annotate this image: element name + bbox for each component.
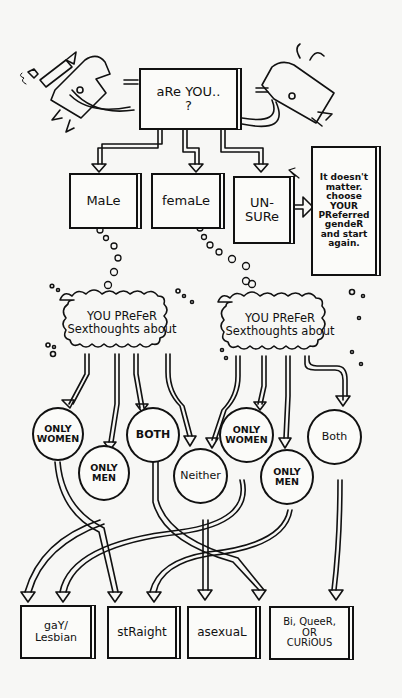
gender-box-female[interactable]: femaLe: [151, 173, 221, 229]
outcome-label: Bi, QueeR, OR CURiOUS: [283, 617, 336, 649]
flowchart: aRe YOU.. ? MaLe femaLe UN- SURe It does…: [0, 0, 402, 698]
question-box: aRe YOU.. ?: [139, 68, 238, 130]
gender-box-unsure[interactable]: UN- SURe: [233, 176, 291, 244]
outcome-label: stRaight: [117, 626, 167, 639]
unsure-note-text: It doesn't matter. choose YOUR PReferred…: [318, 173, 369, 249]
gender-box-male[interactable]: MaLe: [69, 173, 138, 229]
option-neither[interactable]: Neither: [173, 448, 228, 504]
gender-label: MaLe: [86, 194, 120, 208]
option-only-women-right[interactable]: ONLY WOMEN: [219, 407, 274, 463]
outcome-asexual[interactable]: asexuaL: [187, 606, 257, 659]
cloud-label: YOU PReFeR Sexthoughts about: [67, 310, 176, 336]
option-label: ONLY WOMEN: [37, 424, 79, 445]
unsure-note-box: It doesn't matter. choose YOUR PReferred…: [311, 146, 377, 276]
option-label: ONLY WOMEN: [225, 425, 267, 446]
gender-label: femaLe: [162, 194, 210, 208]
option-only-men-left[interactable]: ONLY MEN: [78, 445, 130, 501]
thought-bubbles: [97, 225, 256, 289]
right-character-illustration: [242, 44, 334, 126]
outcome-bi-queer-curious[interactable]: Bi, QueeR, OR CURiOUS: [269, 606, 350, 660]
gender-label: UN- SURe: [245, 196, 279, 223]
option-both-right[interactable]: Both: [307, 409, 362, 465]
preference-cloud-male: YOU PReFeR Sexthoughts about: [56, 292, 188, 354]
outcome-straight[interactable]: stRaight: [107, 606, 177, 659]
outcome-label: gaY/ Lesbian: [35, 620, 77, 643]
outcome-gay-lesbian[interactable]: gaY/ Lesbian: [20, 605, 92, 659]
option-both-left[interactable]: BOTH: [126, 407, 180, 463]
question-label: aRe YOU.. ?: [157, 85, 221, 112]
outcome-label: asexuaL: [197, 626, 247, 639]
option-label: Neither: [180, 470, 221, 482]
option-only-men-right[interactable]: ONLY MEN: [260, 449, 314, 505]
option-label: Both: [322, 431, 348, 443]
option-label: ONLY MEN: [273, 467, 300, 488]
option-label: BOTH: [136, 429, 170, 441]
option-label: ONLY MEN: [90, 463, 117, 484]
preference-cloud-female: YOU PReFeR Sexthoughts about: [214, 294, 346, 356]
left-character-illustration: [20, 52, 138, 132]
option-only-women-left[interactable]: ONLY WOMEN: [32, 407, 84, 461]
cloud-label: YOU PReFeR Sexthoughts about: [225, 312, 334, 338]
